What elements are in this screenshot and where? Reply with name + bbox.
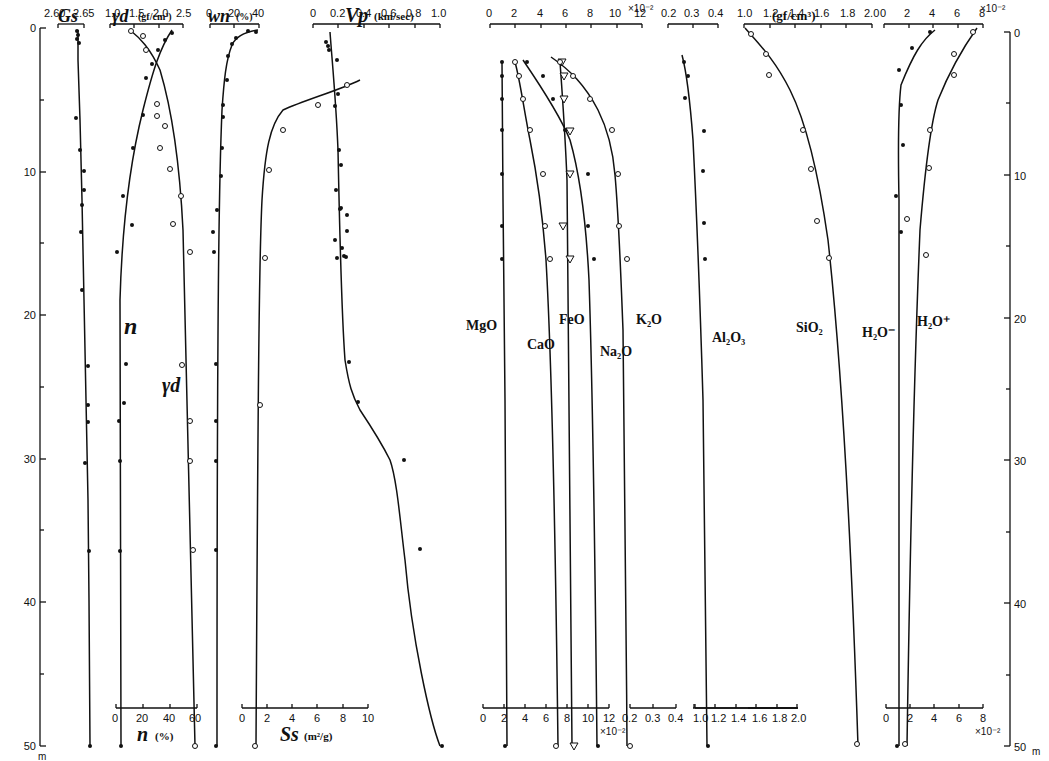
- si-btick-18: 1.8: [772, 712, 787, 724]
- w-tick-4: 4: [929, 7, 935, 19]
- right-depth-tick-30: 30: [1014, 455, 1026, 467]
- ox-tick-0: 0: [486, 7, 492, 19]
- al-btick-04: 0.4: [668, 712, 683, 724]
- water-multiplier-bottom: ×10⁻²: [975, 726, 1001, 737]
- ox-btick-10: 10: [582, 712, 594, 724]
- ox-tick-4: 4: [537, 7, 543, 19]
- wn-tick-40: 40: [252, 7, 264, 19]
- left-depth-axis: 0 10 20 30 40 50 m: [24, 22, 47, 761]
- ss-tick-8: 8: [340, 712, 346, 724]
- al2o3-panel: 0.2 0.3 0.4 Al₂O₃ 0.2 0.3 0.4: [622, 7, 745, 748]
- depth-profile-figure: 0 10 20 30 40 50 m 0 10 20 30 40 50 m Gs…: [0, 0, 1049, 761]
- oxides-panel: ×10⁻² 0 2 4 6 8 10 12: [466, 3, 662, 750]
- right-depth-tick-0: 0: [1014, 27, 1020, 39]
- depth-tick-0: 0: [30, 22, 36, 34]
- w-tick-8: 8: [979, 7, 985, 19]
- depth-tick-10: 10: [24, 166, 36, 178]
- right-depth-tick-50: 50: [1014, 741, 1026, 753]
- depth-tick-20: 20: [24, 309, 36, 321]
- right-depth-axis: 0 10 20 30 40 50 m: [1004, 27, 1040, 757]
- vp-tick-04: 0.4: [356, 7, 371, 19]
- vp-tick-08: 0.8: [406, 7, 421, 19]
- water-panel: ×10⁻² 0 2 4 6 8 H₂O⁻ H₂O⁺ 0 2 4 6 8 ×10⁻…: [862, 3, 1006, 748]
- depth-tick-50: 50: [24, 740, 36, 752]
- gamma-d-tick-25: 2.5: [176, 7, 191, 19]
- h2o-plus-label: H₂O⁺: [917, 314, 950, 329]
- ox-btick-0: 0: [480, 712, 486, 724]
- vp-tick-02: 0.2: [330, 7, 345, 19]
- gamma-d-tick-15: 1.5: [129, 7, 144, 19]
- right-depth-tick-20: 20: [1014, 313, 1026, 325]
- w-btick-8: 8: [980, 712, 986, 724]
- w-tick-6: 6: [954, 7, 960, 19]
- gamma-d-tick-2: 2.0: [153, 7, 168, 19]
- cao-label: CaO: [527, 337, 555, 352]
- ss-tick-10: 10: [362, 712, 374, 724]
- figure-caption: [330, 742, 730, 756]
- w-btick-2: 2: [907, 712, 913, 724]
- gamma-d-tick-1: 1.0: [105, 7, 120, 19]
- sio2-bottom-axis: 1.2 1.4 1.6 1.8 2.0: [695, 704, 806, 724]
- feo-label: FeO: [559, 312, 585, 327]
- si-btick-10: 1.0: [693, 712, 708, 724]
- si-btick-14: 1.4: [731, 712, 746, 724]
- wn-panel: wn (%) 0 20 40: [206, 6, 264, 748]
- oxides-multiplier-bottom: ×10⁻²: [600, 726, 626, 737]
- mgo-label: MgO: [466, 318, 497, 333]
- ox-btick-8: 8: [564, 712, 570, 724]
- ox-btick-4: 4: [522, 712, 528, 724]
- ox-tick-6: 6: [562, 7, 568, 19]
- ss-tick-2: 2: [264, 712, 270, 724]
- w-btick-0: 0: [883, 712, 889, 724]
- ox-tick-12: 12: [634, 7, 646, 19]
- ss-tick-6: 6: [314, 712, 320, 724]
- ss-tick-0: 0: [239, 712, 245, 724]
- si-tick-20: 2.0: [864, 7, 879, 19]
- wn-tick-0: 0: [206, 7, 212, 19]
- n-tick-0: 0: [112, 712, 118, 724]
- ox-btick-2: 2: [501, 712, 507, 724]
- n-curve-label: n: [124, 313, 137, 339]
- right-depth-tick-40: 40: [1014, 598, 1026, 610]
- n-title: n: [137, 723, 148, 745]
- gamma-d-curve-label: γd: [162, 374, 181, 397]
- si-btick-16: 1.6: [752, 712, 767, 724]
- ox-btick-12: 12: [603, 712, 615, 724]
- w-tick-2: 2: [904, 7, 910, 19]
- sio2-panel: (gf/cm³) 1.0 1.2 1.4 1.6 1.8 2.0 SiO₂ 1.…: [693, 7, 879, 747]
- si-tick-16: 1.6: [814, 7, 829, 19]
- right-depth-unit: m: [1032, 746, 1040, 757]
- si-btick-12: 1.2: [711, 712, 726, 724]
- gamma-d-panel: γd (gf/cm³) 1.0 1.5 2.0 2.5 n γd 0 20 40: [105, 6, 201, 749]
- gs-tick-260: 2.60: [44, 7, 65, 19]
- ss-title: Ss: [280, 723, 299, 745]
- ss-unit: (m²/g): [304, 730, 333, 743]
- al2o3-label: Al₂O₃: [712, 330, 745, 345]
- n-unit: (%): [155, 730, 174, 743]
- k2o-label: K₂O: [636, 312, 662, 327]
- depth-tick-40: 40: [24, 596, 36, 608]
- al-btick-03: 0.3: [645, 712, 660, 724]
- depth-tick-30: 30: [24, 453, 36, 465]
- vp-tick-0: 0: [310, 7, 316, 19]
- si-btick-20: 2.0: [791, 712, 806, 724]
- ox-tick-2: 2: [511, 7, 517, 19]
- n-tick-40: 40: [163, 712, 175, 724]
- gs-panel: Gs 2.60 2.65: [44, 6, 94, 748]
- vp-ss-panel: Vp (km/sec) 0 0.2 0.4 0.6 0.8 1.0 0 2 4: [239, 4, 446, 749]
- wn-tick-20: 20: [228, 7, 240, 19]
- si-tick-10: 1.0: [737, 7, 752, 19]
- vp-tick-10: 1.0: [431, 7, 446, 19]
- n-tick-60: 60: [189, 712, 201, 724]
- si-tick-18: 1.8: [840, 7, 855, 19]
- al-tick-04: 0.4: [708, 7, 723, 19]
- depth-unit: m: [38, 751, 46, 761]
- w-btick-6: 6: [956, 712, 962, 724]
- si-tick-14: 1.4: [789, 7, 804, 19]
- si-tick-12: 1.2: [763, 7, 778, 19]
- al-tick-03: 0.3: [684, 7, 699, 19]
- h2o-minus-label: H₂O⁻: [862, 325, 895, 340]
- al-tick-02: 0.2: [661, 7, 676, 19]
- na2o-label: Na₂O: [600, 344, 632, 359]
- right-depth-tick-10: 10: [1014, 170, 1026, 182]
